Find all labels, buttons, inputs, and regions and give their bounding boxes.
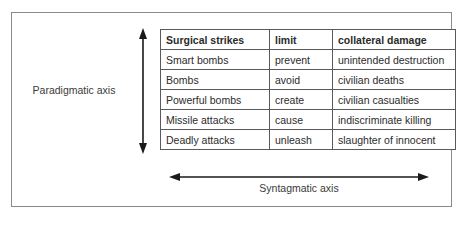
collocation-table: Surgical strikes limit collateral damage… [160,29,456,150]
table-row: Missile attacks cause indiscriminate kil… [161,110,456,130]
table-row: Smart bombs prevent unintended destructi… [161,50,456,70]
table-cell-noun: Bombs [161,70,270,90]
table-cell-verb: cause [270,110,333,130]
table-cell-object: civilian deaths [333,70,456,90]
column-header-collateral-damage: collateral damage [333,30,456,50]
table-header-row: Surgical strikes limit collateral damage [161,30,456,50]
column-header-limit: limit [270,30,333,50]
table-cell-object: slaughter of innocent [333,130,456,150]
table-row: Powerful bombs create civilian casualtie… [161,90,456,110]
table-cell-noun: Missile attacks [161,110,270,130]
table-cell-verb: prevent [270,50,333,70]
table-cell-noun: Deadly attacks [161,130,270,150]
table-row: Bombs avoid civilian deaths [161,70,456,90]
table-body: Smart bombs prevent unintended destructi… [161,50,456,150]
table-cell-noun: Powerful bombs [161,90,270,110]
double-headed-vertical-arrow-icon [134,27,152,155]
table-cell-verb: unleash [270,130,333,150]
table-cell-verb: avoid [270,70,333,90]
table-cell-noun: Smart bombs [161,50,270,70]
column-header-surgical-strikes: Surgical strikes [161,30,270,50]
table-cell-object: unintended destruction [333,50,456,70]
table-cell-object: indiscriminate killing [333,110,456,130]
table-row: Deadly attacks unleash slaughter of inno… [161,130,456,150]
paradigmatic-axis-label: Paradigmatic axis [14,84,134,97]
table-cell-object: civilian casualties [333,90,456,110]
table-cell-verb: create [270,90,333,110]
syntagmatic-axis-label: Syntagmatic axis [168,182,430,195]
table-header: Surgical strikes limit collateral damage [161,30,456,50]
